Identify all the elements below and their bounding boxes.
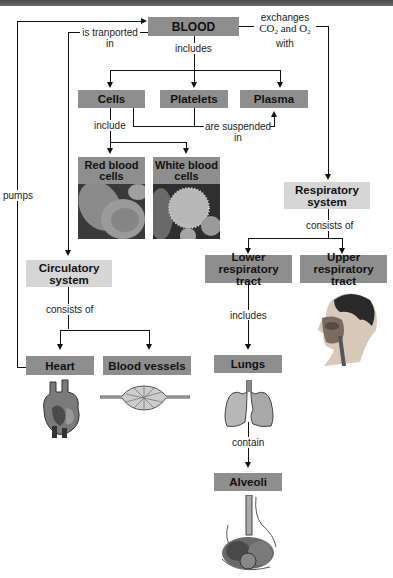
node-label: White blood cells [153, 157, 220, 184]
node-label: Upper respiratory tract [303, 251, 385, 287]
arrow-icon [146, 344, 152, 350]
node-plasma: Plasma [240, 90, 308, 108]
alveoli-image [218, 495, 280, 575]
label-consists-of-respiratory: consists of [306, 220, 353, 231]
header-bar [0, 0, 393, 6]
arrow-icon [191, 82, 197, 88]
arrow-icon [325, 174, 331, 180]
label-exchanges: exchanges CO2 and O2 with [254, 12, 316, 49]
edge-line [60, 330, 61, 344]
node-cells: Cells [78, 90, 145, 108]
label-text: and O [278, 22, 307, 34]
edge-line [248, 238, 249, 248]
node-upper-respiratory-tract: Upper respiratory tract [300, 255, 387, 283]
node-label: Lower respiratory tract [208, 251, 290, 287]
label-text: is tranported [82, 27, 138, 38]
edge-line [60, 330, 150, 331]
red-blood-cells-image [78, 184, 145, 239]
edge-line [248, 238, 343, 239]
node-label: Red blood cells [78, 157, 145, 184]
label-pumps: pumps [3, 190, 33, 201]
node-white-blood-cells: White blood cells [153, 157, 220, 243]
node-heart: Heart [26, 356, 94, 375]
edge-line [133, 126, 195, 127]
arrow-icon [65, 250, 71, 256]
label-text: 2 [307, 28, 311, 36]
edge-line [194, 70, 195, 82]
label-is-transported-in: is tranported in [80, 27, 140, 49]
node-alveoli: Alveoli [214, 473, 282, 491]
blood-vessels-image [100, 384, 190, 412]
arrow-icon [107, 82, 113, 88]
edge-exchanges-line [328, 26, 329, 174]
edge-line [110, 142, 187, 143]
node-red-blood-cells: Red blood cells [78, 157, 145, 243]
edge-line [194, 108, 195, 126]
node-circulatory-system: Circulatory system [26, 260, 112, 287]
label-are-suspended-in: are suspended in [204, 121, 272, 143]
edge-pumps-top [17, 21, 141, 22]
label-include: include [94, 120, 126, 131]
edge-pumps-bottom [17, 367, 26, 368]
arrow-icon [141, 18, 147, 24]
arrow-icon [107, 148, 113, 154]
lungs-image [223, 380, 275, 430]
arrow-icon [271, 111, 277, 117]
edge-line [274, 116, 275, 127]
edge-line [133, 108, 134, 126]
node-blood-vessels: Blood vessels [103, 356, 191, 375]
label-consists-of-circulatory: consists of [46, 304, 93, 315]
node-label: Circulatory system [34, 262, 104, 286]
edge-line [342, 238, 343, 248]
node-platelets: Platelets [160, 90, 228, 108]
edge-line [280, 70, 281, 82]
node-lungs: Lungs [214, 355, 282, 373]
label-text: CO [259, 22, 274, 34]
node-label: Respiratory system [292, 184, 362, 208]
upper-respiratory-tract-image [312, 290, 382, 368]
label-contain: contain [232, 437, 264, 448]
edge-line [110, 70, 111, 82]
node-respiratory-system: Respiratory system [284, 182, 370, 209]
arrow-icon [245, 344, 251, 350]
white-blood-cells-image [153, 184, 220, 239]
edge-includes-branch [110, 70, 280, 71]
label-includes: includes [175, 43, 212, 54]
edge-transported-line [68, 32, 69, 250]
arrow-icon [57, 344, 63, 350]
label-text: in [106, 38, 114, 49]
label-text: in [234, 132, 242, 143]
arrow-icon [245, 462, 251, 468]
label-text: with [276, 38, 294, 49]
node-lower-respiratory-tract: Lower respiratory tract [205, 255, 292, 283]
edge-line [248, 320, 249, 344]
arrow-icon [277, 82, 283, 88]
node-blood: BLOOD [148, 17, 239, 36]
edge-line [149, 330, 150, 344]
arrow-icon [183, 148, 189, 154]
label-text: are suspended [205, 121, 271, 132]
heart-image [38, 378, 86, 438]
